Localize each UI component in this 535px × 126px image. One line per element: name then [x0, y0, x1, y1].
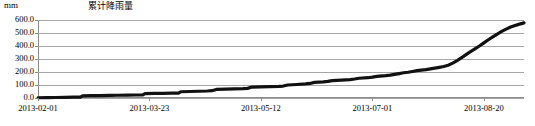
- plot-area: [38, 20, 524, 98]
- y-axis-tick-label: 400.0: [15, 41, 34, 50]
- y-axis-tick-label: 100.0: [15, 80, 34, 89]
- y-axis-tick-label: 300.0: [15, 54, 34, 63]
- data-series-line: [38, 23, 524, 98]
- x-axis-tick-label: 2013-02-01: [18, 103, 58, 113]
- chart-title: 累计降雨量: [88, 1, 133, 12]
- series-line-cumulative-rainfall: [38, 20, 524, 98]
- y-axis-tick-label: 200.0: [15, 67, 34, 76]
- y-axis-tick-label: 0.0: [23, 93, 34, 102]
- cumulative-rainfall-chart: mm 累计降雨量 600.0500.0400.0300.0200.0100.00…: [0, 0, 535, 126]
- y-axis-unit-label: mm: [4, 0, 18, 11]
- y-axis-tick-label: 600.0: [15, 15, 34, 24]
- y-axis-tick-label: 500.0: [15, 28, 34, 37]
- x-axis-tick-label: 2013-03-23: [130, 103, 170, 113]
- x-axis-tick-label: 2013-08-20: [464, 103, 504, 113]
- x-axis-tick-label: 2013-07-01: [353, 103, 393, 113]
- x-axis-tick-label: 2013-05-12: [241, 103, 281, 113]
- gridline: [38, 98, 524, 99]
